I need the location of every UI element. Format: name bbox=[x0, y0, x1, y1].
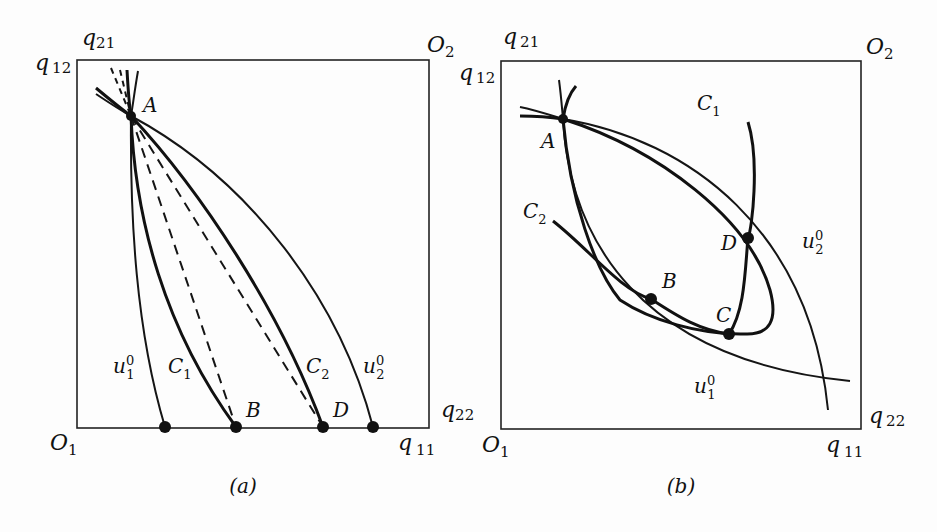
label-o1-b: O1 bbox=[482, 432, 510, 461]
label-point-a-b: A bbox=[539, 129, 555, 153]
label-q11-a: q11 bbox=[398, 430, 435, 459]
label-o2-b: O2 bbox=[866, 34, 894, 63]
label-u2-b: u02 bbox=[802, 228, 823, 257]
label-point-d-a: D bbox=[332, 398, 349, 422]
dashed-line-ad bbox=[131, 116, 323, 427]
label-o2-a: O2 bbox=[427, 32, 455, 61]
label-u1-b: u01 bbox=[694, 373, 715, 402]
label-point-b-b: B bbox=[661, 269, 677, 293]
label-q22-a: q22 bbox=[441, 397, 474, 424]
label-q21-b: q21 bbox=[503, 24, 539, 51]
u2-indifference-curve-a bbox=[131, 116, 373, 427]
label-q12-a: q12 bbox=[35, 50, 71, 77]
point-c-marker-b bbox=[723, 328, 735, 340]
label-q21-a: q21 bbox=[82, 25, 115, 52]
label-u2-a: u02 bbox=[363, 353, 384, 382]
contract-curve-c1-b bbox=[729, 122, 754, 334]
point-u2-marker bbox=[367, 421, 379, 433]
label-point-a-a: A bbox=[141, 93, 157, 117]
point-u1-marker bbox=[159, 421, 171, 433]
stub-vertical-b bbox=[559, 80, 563, 119]
point-a-marker-b bbox=[558, 114, 568, 124]
label-point-d-b: D bbox=[720, 231, 737, 255]
edgeworth-box-figure: q21 q12 O2 O1 q22 q11 u01 C1 C2 u02 A B … bbox=[0, 0, 937, 532]
point-d-marker-b bbox=[742, 232, 754, 244]
stub-up-a2 bbox=[131, 71, 138, 116]
label-point-b-a: B bbox=[245, 398, 261, 422]
label-q11-b: q11 bbox=[826, 432, 863, 461]
contract-curve-c2-b bbox=[553, 221, 729, 334]
curves-b bbox=[520, 80, 850, 410]
point-d-marker bbox=[317, 421, 329, 433]
label-q22-b: q22 bbox=[869, 403, 905, 430]
panel-a: q21 q12 O2 O1 q22 q11 u01 C1 C2 u02 A B … bbox=[35, 25, 474, 498]
stub-hook-b bbox=[563, 86, 576, 119]
point-b-marker-b bbox=[645, 293, 657, 305]
panel-b: q21 q12 O2 O1 q22 q11 C1 C2 u02 u01 A B … bbox=[459, 24, 905, 498]
label-c2-b: C2 bbox=[523, 199, 547, 227]
caption-b: (b) bbox=[667, 474, 695, 498]
label-c1-a: C1 bbox=[168, 354, 192, 382]
label-c1-b: C1 bbox=[697, 91, 721, 119]
label-o1-a: O1 bbox=[50, 430, 78, 459]
label-u1-a: u01 bbox=[113, 353, 134, 382]
curves-a bbox=[96, 68, 373, 427]
label-c2-a: C2 bbox=[306, 354, 330, 382]
label-q12-b: q12 bbox=[459, 60, 495, 87]
point-b-marker bbox=[230, 421, 242, 433]
caption-a: (a) bbox=[229, 474, 257, 498]
point-a-marker bbox=[126, 111, 136, 121]
label-point-c-b: C bbox=[716, 303, 731, 327]
